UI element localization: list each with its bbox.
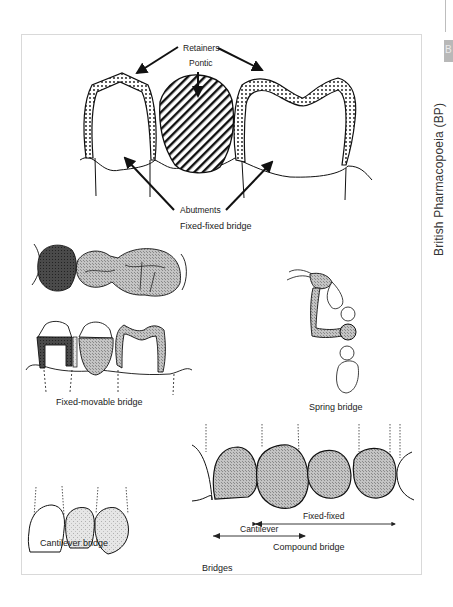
label-retainers: Retainers [183, 43, 219, 53]
bridges-illustration [0, 0, 453, 607]
caption-compound-bridge: Compound bridge [273, 542, 345, 552]
textbook-page: B British Pharmacopoeia (BP) [0, 0, 453, 607]
figure-caption: Bridges [202, 563, 233, 573]
caption-fixed-fixed-bridge: Fixed-fixed bridge [180, 221, 252, 231]
label-pontic: Pontic [189, 58, 213, 68]
label-cantilever-span: Cantilever [240, 524, 278, 534]
label-fixed-fixed-span: Fixed-fixed [303, 511, 345, 521]
caption-fixed-movable-bridge: Fixed-movable bridge [56, 397, 143, 407]
fixed-movable-bridge-diagram [26, 244, 192, 395]
compound-bridge-diagram [192, 424, 414, 539]
caption-cantilever-bridge: Cantilever bridge [40, 538, 108, 548]
fixed-fixed-bridge-diagram [80, 47, 372, 210]
spring-bridge-diagram [287, 270, 359, 393]
caption-spring-bridge: Spring bridge [309, 402, 363, 412]
label-abutments: Abutments [180, 205, 221, 215]
